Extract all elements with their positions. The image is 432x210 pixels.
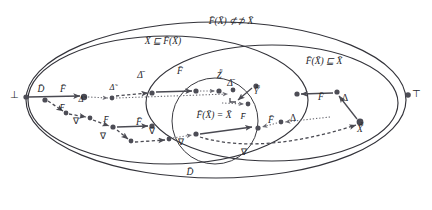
point-y-superscript: m [256, 83, 261, 89]
edge-ym-dotted [222, 103, 244, 104]
annotation-delta-bar-1: Δ̄ [136, 70, 146, 80]
center-bracket [230, 98, 236, 102]
annotation-nabla-1: ∇ [72, 116, 80, 126]
node-r2 [334, 89, 339, 94]
annotation-nabla-5: ∇ [177, 137, 185, 147]
node-l5 [129, 139, 134, 144]
annotation-nabla-2: ∇ [99, 131, 107, 141]
annotation-functor-8: F̄ [239, 111, 246, 121]
annotation-functor-6: F̄ [317, 92, 324, 102]
point-label-y-m: Ȳ m [254, 83, 261, 96]
annotation-functor-5: F̄ [176, 66, 183, 76]
node-bottom [23, 94, 28, 99]
edge-bot-to-f1 [28, 96, 80, 97]
edge-t1-to-t2 [116, 93, 148, 96]
node-l7 [193, 131, 198, 136]
node-m2 [279, 120, 284, 125]
node-t2 [149, 90, 154, 95]
edge-f1-to-t1 [88, 97, 108, 98]
annotation-delta-2: Δ [290, 113, 296, 123]
annotation-functor-3: F̄ [102, 114, 109, 124]
annotation-delta-bar-2: Δ̄ [226, 78, 236, 88]
annotation-nabla-4: ∇ [240, 147, 248, 157]
annotation-delta-tilde-2: Δ̃ [109, 82, 119, 92]
right-ellipse-label: F̄(X̄) ⊑ X̄ [305, 56, 344, 67]
annotation-functor-7: F̄ [267, 115, 274, 125]
node-t3 [193, 88, 198, 93]
left-ellipse-label: X̄ ⊑ F̄(X̄) [144, 36, 182, 47]
node-ym-target [246, 102, 251, 107]
point-z-superscript: n [220, 67, 223, 73]
annotation-delta-1: Δ [342, 93, 348, 103]
lattice-fixpoint-diagram: F̄(X̄) ⊄⊅ X̄ X̄ ⊑ F̄(X̄) F̄(X̄) ⊑ X̄ F̄(… [0, 0, 432, 210]
left-ellipse-boundary [28, 36, 308, 164]
node-z-n [231, 88, 236, 93]
annotation-functor-2: F̄ [58, 102, 65, 112]
outer-ellipse-label: F̄(X̄) ⊄⊅ X̄ [208, 16, 255, 27]
figure-canvas: F̄(X̄) ⊄⊅ X̄ X̄ ⊑ F̄(X̄) F̄(X̄) ⊑ X̄ F̄(… [0, 0, 432, 210]
node-m1 [255, 125, 260, 130]
annotation-nabla-3: ∇ [148, 126, 156, 136]
bottom-element-label: ⊥ [10, 90, 19, 100]
node-d1 [42, 97, 47, 102]
edge-l3-to-l5 [117, 130, 128, 139]
annotation-functor-1: F̄ [59, 84, 66, 94]
node-l6 [167, 137, 172, 142]
edge-l5-to-l6 [135, 140, 165, 142]
edge-l3-to-l4 [117, 126, 148, 127]
node-t1 [110, 96, 115, 101]
edge-r2-to-r1 [301, 93, 333, 94]
node-r1 [294, 91, 299, 96]
node-l3 [110, 124, 115, 129]
bottom-region-label: D̄ [186, 167, 194, 177]
edge-l7-to-xn-sweep [200, 125, 356, 144]
annotation-layer: D̄ F̄ F̄ Δ̃ ∇ F̄ ∇ F̄ ∇ Δ̃ Δ̄ F̄ Δ̄ F̄ Δ… [37, 66, 348, 157]
edge-l7-to-m1 [200, 127, 252, 134]
node-top [405, 92, 411, 98]
point-x-superscript: n [361, 120, 364, 126]
center-circle-label: F̄(X̄) = X̄ [196, 110, 233, 121]
annotation-domain-bar: D̄ [37, 84, 45, 94]
top-element-label: ⊤ [412, 89, 421, 99]
left-ellipse-region: X̄ ⊑ F̄(X̄) [28, 36, 308, 164]
node-t4 [216, 88, 221, 93]
annotation-functor-4: F̄ [135, 117, 142, 127]
node-l2 [88, 116, 93, 121]
edge-t2-to-t3 [156, 91, 192, 92]
